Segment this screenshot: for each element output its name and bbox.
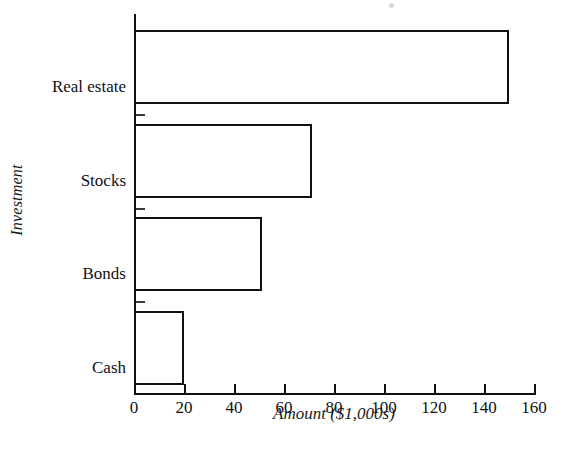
bar-cash bbox=[134, 311, 184, 385]
x-axis-tick bbox=[434, 384, 436, 394]
bar-chart: Investment Real estateStocksBondsCash 02… bbox=[0, 0, 567, 463]
x-axis-tick bbox=[534, 384, 536, 394]
x-axis-title: Amount ($1,000s) bbox=[134, 404, 534, 424]
y-axis-title: Investment bbox=[0, 0, 34, 400]
y-axis-tick-label: Stocks bbox=[81, 171, 126, 191]
x-axis-tick bbox=[384, 384, 386, 394]
scan-artifact bbox=[389, 3, 394, 8]
x-axis-tick bbox=[334, 384, 336, 394]
y-axis-minor-tick bbox=[136, 208, 145, 210]
x-axis-tick bbox=[234, 384, 236, 394]
y-axis-title-label: Investment bbox=[8, 164, 26, 235]
x-axis-tick bbox=[284, 384, 286, 394]
plot-area: 020406080100120140160 bbox=[134, 20, 534, 395]
y-axis-minor-tick bbox=[136, 114, 145, 116]
y-axis-tick-label: Real estate bbox=[52, 77, 126, 97]
bar-stocks bbox=[134, 124, 312, 198]
y-axis-tick-label: Bonds bbox=[83, 264, 126, 284]
x-axis-tick bbox=[184, 384, 186, 394]
x-axis-tick bbox=[134, 384, 136, 394]
bar-bonds bbox=[134, 217, 262, 291]
y-axis-minor-tick bbox=[136, 301, 145, 303]
y-axis-tick-labels: Real estateStocksBondsCash bbox=[30, 20, 130, 395]
bar-real-estate bbox=[134, 30, 509, 104]
y-axis-tick-label: Cash bbox=[92, 358, 126, 378]
x-axis-tick bbox=[484, 384, 486, 394]
